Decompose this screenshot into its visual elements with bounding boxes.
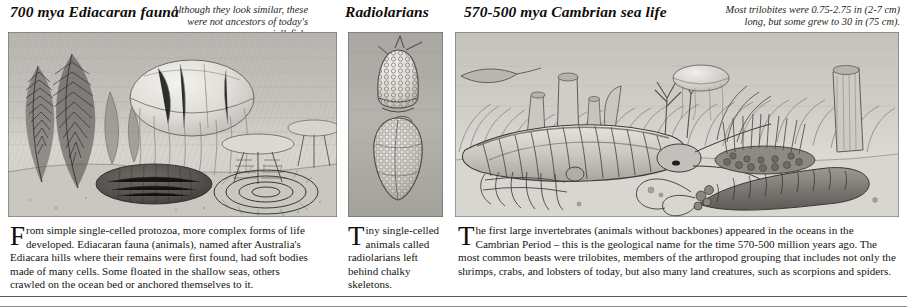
dropcap-t: T: [458, 224, 476, 246]
dropcap-f: F: [10, 224, 26, 246]
cambrian-sea-life-illustration: [455, 32, 899, 217]
body-column-cambrian: The first large invertebrates (animals w…: [458, 224, 898, 278]
book-page-spread: 700 mya Ediacaran fauna Although they lo…: [0, 0, 907, 307]
section-caption-cambrian: Most trilobites were 0.75-2.75 in (2-7 c…: [672, 4, 900, 28]
dropcap-t: T: [348, 224, 366, 246]
ediacaran-seafloor-illustration: [8, 32, 337, 217]
body-paragraph-radiolarians: Tiny single-celled animals called radiol…: [348, 224, 444, 292]
body-paragraph-ediacaran: From simple single-celled protozoa, more…: [10, 224, 310, 292]
section-header-radiolarians: Radiolarians: [345, 3, 429, 21]
section-header-ediacaran: 700 mya Ediacaran fauna: [10, 3, 179, 21]
footer-divider-top: [0, 296, 907, 297]
body-paragraph-cambrian: The first large invertebrates (animals w…: [458, 224, 898, 278]
section-title-cambrian: 570-500 mya Cambrian sea life: [464, 3, 667, 21]
caption-line-2: long, but some grew to 30 in (75 cm).: [672, 16, 900, 28]
caption-line-1: Although they look similar, these: [160, 4, 308, 16]
section-header-cambrian: 570-500 mya Cambrian sea life: [464, 3, 667, 21]
section-title-ediacaran: 700 mya Ediacaran fauna: [10, 3, 179, 21]
body-text-ediacaran: rom simple single-celled protozoa, more …: [10, 224, 308, 290]
body-text-cambrian: he first large invertebrates (animals wi…: [458, 224, 896, 277]
body-column-radiolarians: Tiny single-celled animals called radiol…: [348, 224, 444, 292]
caption-line-1: Most trilobites were 0.75-2.75 in (2-7 c…: [672, 4, 900, 16]
body-column-ediacaran: From simple single-celled protozoa, more…: [10, 224, 310, 292]
section-title-radiolarians: Radiolarians: [345, 3, 429, 21]
radiolarian-shells-illustration: [348, 32, 443, 217]
